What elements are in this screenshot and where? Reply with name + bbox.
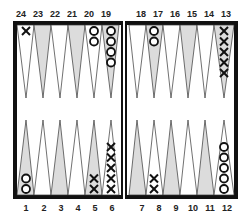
point-15 bbox=[180, 25, 197, 98]
checker-o[interactable] bbox=[220, 154, 228, 162]
checker-o[interactable] bbox=[150, 27, 158, 35]
point-22 bbox=[51, 25, 68, 98]
point-3 bbox=[51, 120, 68, 195]
checker-o[interactable] bbox=[22, 175, 30, 183]
checker-o[interactable] bbox=[107, 38, 115, 46]
checker-o[interactable] bbox=[220, 185, 228, 193]
point-14 bbox=[197, 25, 214, 98]
checker-o[interactable] bbox=[220, 175, 228, 183]
checker-o[interactable] bbox=[150, 38, 158, 46]
checker-o[interactable] bbox=[107, 27, 115, 35]
point-5 bbox=[85, 120, 102, 195]
point-16 bbox=[163, 25, 180, 98]
point-17 bbox=[146, 25, 163, 98]
point-24 bbox=[17, 25, 34, 98]
point-23 bbox=[34, 25, 51, 98]
point-21 bbox=[68, 25, 85, 98]
checker-o[interactable] bbox=[107, 48, 115, 56]
checker-o[interactable] bbox=[220, 164, 228, 172]
checker-o[interactable] bbox=[90, 27, 98, 35]
point-1 bbox=[17, 120, 34, 195]
points-layer bbox=[0, 0, 249, 216]
point-7 bbox=[129, 120, 146, 195]
point-18 bbox=[129, 25, 146, 98]
point-9 bbox=[163, 120, 180, 195]
point-2 bbox=[34, 120, 51, 195]
checker-o[interactable] bbox=[107, 59, 115, 67]
point-20 bbox=[85, 25, 102, 98]
checker-o[interactable] bbox=[22, 185, 30, 193]
point-10 bbox=[180, 120, 197, 195]
checker-o[interactable] bbox=[90, 38, 98, 46]
point-8 bbox=[146, 120, 163, 195]
checkers-layer bbox=[22, 27, 228, 193]
checker-o[interactable] bbox=[220, 143, 228, 151]
point-4 bbox=[68, 120, 85, 195]
point-11 bbox=[197, 120, 214, 195]
